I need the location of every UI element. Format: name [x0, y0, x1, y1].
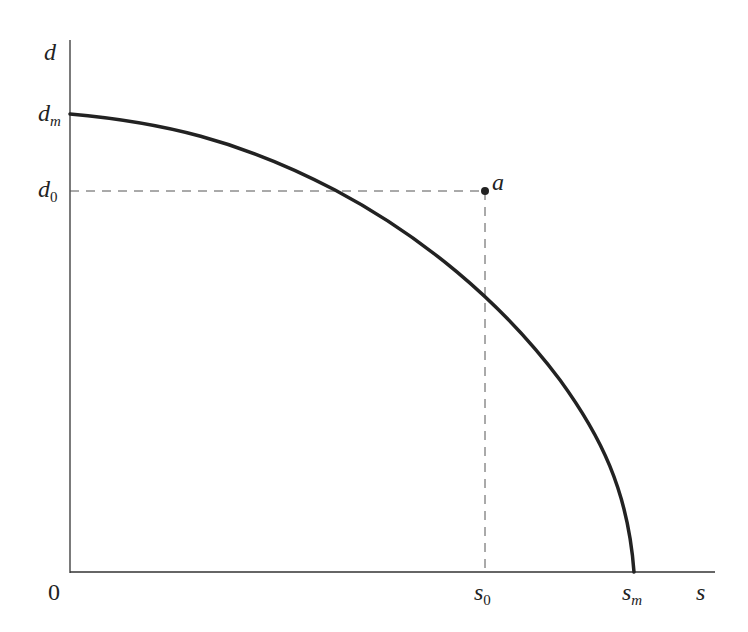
point-a-label: a: [492, 170, 504, 194]
plot-area: [0, 0, 748, 632]
s0-label: s0: [474, 580, 491, 608]
sm-label: sm: [622, 580, 642, 608]
y-axis-label: d: [44, 40, 56, 64]
d0-label: d0: [38, 177, 58, 205]
point-a-marker: [481, 187, 489, 195]
diagram: d dm d0 0 s0 sm s a: [0, 0, 748, 632]
x-axis-label: s: [696, 580, 705, 604]
frontier-curve: [70, 114, 634, 572]
dm-label: dm: [38, 101, 61, 129]
origin-label: 0: [48, 580, 60, 604]
